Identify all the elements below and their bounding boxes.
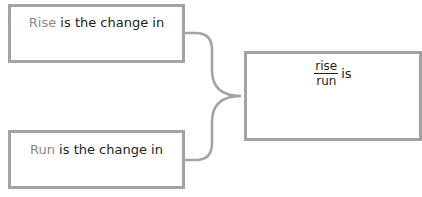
result-box: rise run is xyxy=(244,51,422,141)
run-label: Run is the change in xyxy=(11,142,182,157)
fraction-denominator: run xyxy=(314,74,338,87)
rise-box: Rise is the change in xyxy=(8,4,185,63)
run-term: Run xyxy=(30,142,55,157)
rise-over-run-fraction: rise run xyxy=(314,60,338,87)
run-box: Run is the change in xyxy=(8,130,185,189)
result-text: is xyxy=(341,66,351,81)
fraction-numerator: rise xyxy=(314,60,338,74)
rise-text: is the change in xyxy=(56,15,164,30)
run-text: is the change in xyxy=(55,142,163,157)
rise-label: Rise is the change in xyxy=(11,15,182,30)
rise-term: Rise xyxy=(29,15,56,30)
result-label: rise run is xyxy=(247,60,419,87)
